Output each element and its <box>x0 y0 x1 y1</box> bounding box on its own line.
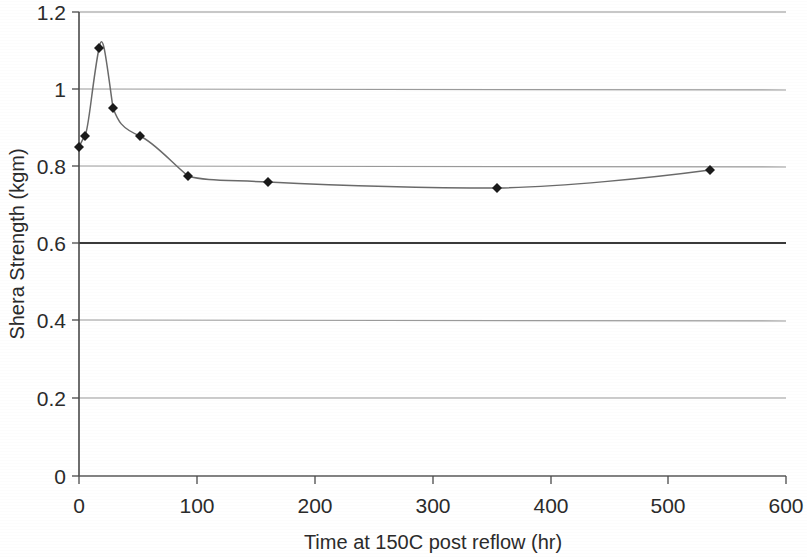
x-tick-label: 200 <box>297 494 332 517</box>
y-tick-label: 1 <box>54 78 66 101</box>
x-tick-label: 600 <box>768 494 803 517</box>
y-tick-label: 0.4 <box>37 309 67 332</box>
y-tick-label: 0.8 <box>37 155 66 178</box>
x-tick-label: 500 <box>650 494 685 517</box>
line-chart: 1.2 1 0.8 0.6 0.4 0.2 0 0 100 200 300 40… <box>0 0 807 557</box>
y-axis-ticks <box>72 12 79 476</box>
plot-area-background <box>79 12 786 476</box>
y-tick-label: 0 <box>54 465 66 488</box>
chart-screenshot: 1.2 1 0.8 0.6 0.4 0.2 0 0 100 200 300 40… <box>0 0 807 557</box>
y-tick-label: 0.2 <box>37 387 66 410</box>
y-tick-label: 1.2 <box>37 1 66 24</box>
x-tick-label: 100 <box>179 494 214 517</box>
x-axis-ticks <box>79 476 786 484</box>
x-tick-label: 400 <box>533 494 568 517</box>
y-axis-title: Shera Strength (kgm) <box>6 148 28 339</box>
x-tick-label: 300 <box>415 494 450 517</box>
y-tick-label: 0.6 <box>37 232 66 255</box>
x-tick-label: 0 <box>73 494 85 517</box>
x-axis-title: Time at 150C post reflow (hr) <box>304 531 562 553</box>
